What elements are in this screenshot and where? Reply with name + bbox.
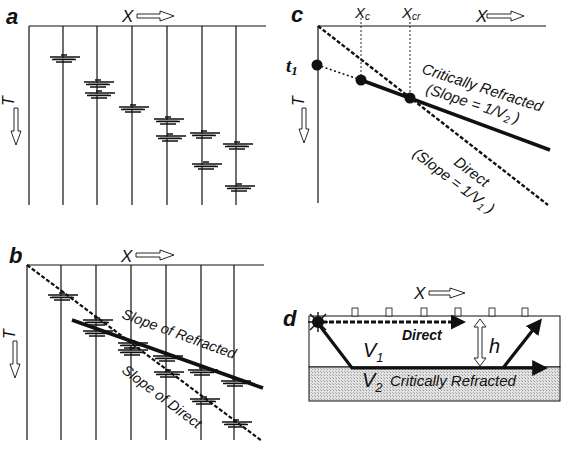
x-direction-arrow-icon xyxy=(487,11,524,21)
seismic-traces-a xyxy=(29,26,236,205)
t-direction-arrow-icon xyxy=(11,108,21,145)
thickness-label: h xyxy=(489,335,500,357)
panel-d: d X h Direct V1 V2 Critically Refrac xyxy=(283,284,560,401)
refracted-label-d: Critically Refracted xyxy=(390,372,517,389)
t-direction-arrow-icon xyxy=(10,341,20,378)
t1-point xyxy=(312,60,323,71)
xcr-label: Xcr xyxy=(401,4,421,22)
seismic-refraction-figure: a X T xyxy=(0,0,564,449)
x-axis-label-a: X xyxy=(121,7,134,26)
panel-label-b: b xyxy=(9,243,22,268)
panel-label-a: a xyxy=(6,4,18,29)
geophone-icons xyxy=(352,308,528,316)
y-axis-label-a: T xyxy=(0,95,17,106)
panel-a: a X T xyxy=(0,4,266,205)
panel-label-c: c xyxy=(291,2,303,27)
t1-label: t1 xyxy=(286,55,298,78)
wavelets-a xyxy=(50,55,255,191)
x-direction-arrow-icon xyxy=(429,288,465,298)
x-axis-label-b: X xyxy=(120,247,133,266)
t-direction-arrow-icon xyxy=(299,108,309,143)
x-axis-label-d: X xyxy=(413,284,426,303)
x-axis-label-c: X xyxy=(475,7,488,26)
y-axis-label-b: T xyxy=(1,328,18,339)
x-direction-arrow-icon xyxy=(136,250,174,260)
refracted-slope-label: Slope of Refracted xyxy=(120,306,239,362)
xc-label: Xc xyxy=(354,4,370,22)
x-direction-arrow-icon xyxy=(137,11,174,21)
panel-label-d: d xyxy=(283,306,297,331)
direct-annotation: Direct (Slope = 1/V1 ) xyxy=(409,130,509,218)
xcr-point xyxy=(405,93,416,104)
intercept-extension-line xyxy=(317,65,361,80)
panel-b: b X T xyxy=(1,243,264,441)
y-axis-label-c: T xyxy=(290,95,307,106)
xc-point xyxy=(356,75,367,86)
direct-label-d: Direct xyxy=(402,327,443,343)
panel-c: c X T Xc Xcr t1 Critically Refracted (Sl… xyxy=(286,2,550,218)
wavelets-b xyxy=(48,293,252,427)
